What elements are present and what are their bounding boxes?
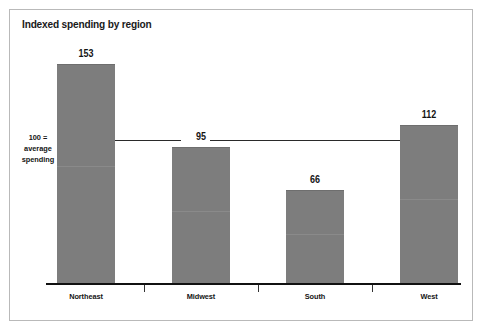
bar-value-northeast: 153: [60, 48, 112, 59]
axis-tick: [144, 285, 145, 292]
axis-tick: [258, 285, 259, 292]
category-label-south: South: [283, 292, 347, 301]
bar-west[interactable]: [400, 125, 458, 284]
bar-value-midwest: 95: [175, 131, 227, 142]
bar-value-south: 66: [289, 174, 341, 185]
bar-value-west: 112: [403, 109, 455, 120]
reference-line-label: 100 = average spending: [16, 132, 60, 165]
category-label-northeast: Northeast: [54, 292, 118, 301]
bar-south[interactable]: [286, 190, 344, 284]
reference-label-line-1: 100 =: [16, 132, 60, 143]
reference-line-segment: [115, 140, 181, 141]
reference-label-line-3: spending: [16, 154, 60, 165]
reference-line-segment: [210, 140, 400, 141]
bar-northeast[interactable]: [57, 64, 115, 284]
category-label-midwest: Midwest: [169, 292, 233, 301]
x-axis-line: [46, 283, 461, 285]
chart-figure: Indexed spending by region 100 = average…: [0, 0, 484, 332]
bar-midwest[interactable]: [172, 147, 230, 284]
reference-label-line-2: average: [16, 143, 60, 154]
category-label-west: West: [397, 292, 461, 301]
plot-area: 100 = average spending 153 95 66 112 Nor…: [0, 0, 484, 332]
axis-tick: [372, 285, 373, 292]
